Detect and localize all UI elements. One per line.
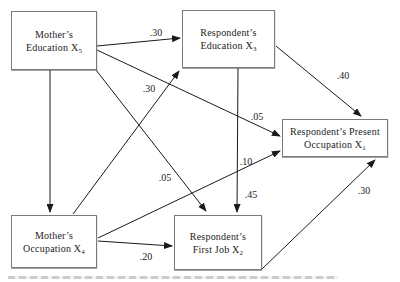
node-label-line2: First Job X2 xyxy=(193,243,243,256)
path-coefficient-x3-to-x2: .45 xyxy=(245,189,258,200)
node-x3: Respondent’sEducation X3 xyxy=(182,10,275,68)
path-coefficient-x4-to-x3: .30 xyxy=(143,83,156,94)
path-arrow-x2-to-x1 xyxy=(262,160,375,269)
path-coefficient-x5-to-x3: .30 xyxy=(150,27,163,38)
path-arrow-x5-to-x3 xyxy=(97,38,180,46)
variable-name: Education X xyxy=(26,42,78,53)
node-label-line2: Education X5 xyxy=(26,41,82,54)
node-label-line1: Respondent’s xyxy=(200,26,256,39)
path-coefficient-x3-to-x1: .40 xyxy=(337,70,350,81)
node-label-line1: Mother’s xyxy=(35,229,73,242)
node-label-line1: Respondent’s xyxy=(190,230,246,243)
path-diagram: Mother’sEducation X5Respondent’sEducatio… xyxy=(0,0,400,282)
path-arrow-x3-to-x2 xyxy=(237,68,238,212)
node-x5: Mother’sEducation X5 xyxy=(11,11,97,70)
variable-name: Education X xyxy=(200,40,252,51)
node-x1: Respondent’s PresentOccupation X1 xyxy=(282,119,388,157)
path-coefficient-x4-to-x1: .10 xyxy=(240,156,253,167)
variable-name: Occupation X xyxy=(304,139,362,150)
path-arrow-x3-to-x1 xyxy=(276,46,361,116)
node-label-line2: Education X3 xyxy=(200,39,256,52)
variable-name: First Job X xyxy=(193,244,240,255)
variable-subscript: 4 xyxy=(81,248,85,256)
node-label-line1: Mother’s xyxy=(35,28,73,41)
variable-subscript: 1 xyxy=(362,144,366,152)
cropped-caption-artifact xyxy=(8,276,338,279)
node-x4: Mother’sOccupation X4 xyxy=(11,215,97,268)
path-coefficient-x2-to-x1: .30 xyxy=(358,185,371,196)
variable-subscript: 2 xyxy=(239,249,243,257)
node-label-line1: Respondent’s Present xyxy=(290,125,380,138)
path-arrow-x4-to-x2 xyxy=(98,241,172,246)
path-coefficient-x5-to-x1: .05 xyxy=(251,111,264,122)
path-arrow-x4-to-x3 xyxy=(73,71,179,214)
node-x2: Respondent’sFirst Job X2 xyxy=(174,215,262,270)
path-coefficient-x5-to-x2: .05 xyxy=(159,172,172,183)
path-coefficient-x4-to-x2: .20 xyxy=(140,251,153,262)
variable-subscript: 5 xyxy=(78,47,82,55)
variable-subscript: 3 xyxy=(253,45,257,53)
variable-name: Occupation X xyxy=(23,243,81,254)
node-label-line2: Occupation X1 xyxy=(304,138,366,151)
node-label-line2: Occupation X4 xyxy=(23,242,85,255)
